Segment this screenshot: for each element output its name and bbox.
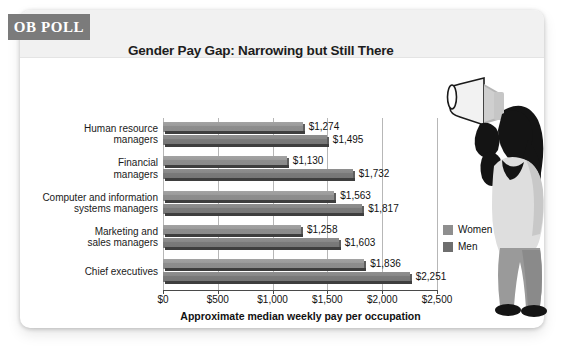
bar-value-women-4: $1,836 [370,258,401,270]
category-label-line: sales managers [8,237,158,249]
bar-side [301,227,303,234]
category-label-line: managers [8,134,158,146]
bar-side [287,158,289,165]
bar-value-men-1: $1,732 [359,168,390,180]
category-label-1: Financialmanagers [8,157,158,180]
legend-swatch-men-icon [443,242,453,252]
legend-swatch-women-icon [443,225,453,235]
category-label-line: systems managers [8,203,158,215]
bar-side [334,193,336,200]
tick-label-0: $0 [157,294,168,305]
bar-side [303,124,305,131]
bar-shadow [165,281,412,284]
bar-shadow [165,247,341,250]
bar-shadow [165,178,355,181]
infographic-root: Gender Pay Gap: Narrowing but Still Ther… [0,0,564,353]
x-axis-title: Approximate median weekly pay per occupa… [163,310,438,322]
category-label-line: Marketing and [8,226,158,238]
bar-side [339,240,341,247]
bar-men-0 [163,135,327,147]
legend-item-women: Women [443,222,492,237]
chart-bars: $1,274$1,495$1,130$1,732$1,563$1,817$1,2… [163,118,437,290]
legend-item-men: Men [443,239,492,254]
poll-badge-label: OB POLL [14,19,84,36]
tick-label-2500: $2,500 [422,294,453,305]
category-label-0: Human resourcemanagers [8,123,158,146]
y-axis-category-labels: Human resourcemanagersFinancialmanagersC… [8,118,158,290]
bar-men-1 [163,169,353,181]
category-label-line: Financial [8,157,158,169]
bar-women-4 [163,259,364,271]
bar-side [362,206,364,213]
bar-value-women-1: $1,130 [293,155,324,167]
bar-shadow [165,165,289,168]
bar-men-3 [163,238,339,250]
bar-value-women-3: $1,258 [307,224,338,236]
tick-label-500: $500 [207,294,229,305]
tick-label-1000: $1,000 [257,294,288,305]
bar-shadow [165,144,329,147]
bar-shadow [165,131,305,134]
category-label-line: Chief executives [8,266,158,278]
category-label-line: Computer and information [8,192,158,204]
category-label-3: Marketing andsales managers [8,226,158,249]
bar-women-0 [163,122,303,134]
category-label-4: Chief executives [8,266,158,278]
bar-shadow [165,200,336,203]
category-label-2: Computer and informationsystems managers [8,192,158,215]
bar-value-women-2: $1,563 [340,190,371,202]
legend-label-men: Men [458,241,477,252]
tick-label-2000: $2,000 [367,294,398,305]
bar-value-men-3: $1,603 [345,237,376,249]
bar-men-4 [163,272,410,284]
page-title: Gender Pay Gap: Narrowing but Still Ther… [128,43,394,58]
bar-value-men-2: $1,817 [368,203,399,215]
chart-legend: Women Men [443,222,492,256]
bar-women-3 [163,225,301,237]
bar-value-men-0: $1,495 [333,134,364,146]
bar-women-2 [163,191,334,203]
bar-men-2 [163,204,362,216]
category-label-line: managers [8,169,158,181]
poll-badge: OB POLL [8,14,90,40]
bar-side [327,137,329,144]
category-label-line: Human resource [8,123,158,135]
bar-shadow [165,268,366,271]
bar-value-men-4: $2,251 [416,271,447,283]
bar-side [353,171,355,178]
x-axis-line [163,290,438,291]
bar-side [410,274,412,281]
bar-shadow [165,213,364,216]
tick-label-1500: $1,500 [312,294,343,305]
bar-shadow [165,234,303,237]
legend-label-women: Women [458,224,492,235]
bar-value-women-0: $1,274 [309,121,340,133]
bar-side [364,261,366,268]
gridline-2500 [437,118,438,290]
bar-women-1 [163,156,287,168]
